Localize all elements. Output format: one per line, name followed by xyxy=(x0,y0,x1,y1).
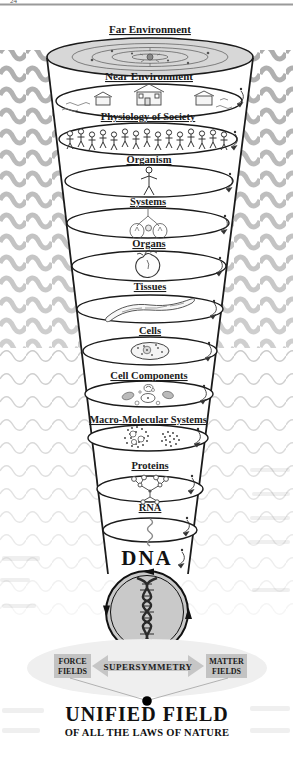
level-disc-macro-molecular xyxy=(88,425,208,451)
matter-fields-label-line1: MATTER xyxy=(209,657,244,666)
level-label-proteins: Proteins xyxy=(131,460,168,471)
matter-fields-label-line2: FIELDS xyxy=(212,667,241,676)
diagram-canvas: 24 xyxy=(0,0,293,758)
level-label-far-environment: Far Environment xyxy=(109,23,191,35)
level-disc-physiology-of-society xyxy=(59,123,237,155)
level-label-macro-molecular: Macro-Molecular Systems xyxy=(89,414,207,425)
level-disc-rna xyxy=(103,518,197,542)
force-fields-label-line2: FIELDS xyxy=(58,667,87,676)
force-fields-label-line1: FORCE xyxy=(59,657,87,666)
level-label-physiology-of-society: Physiology of Society xyxy=(101,111,196,122)
level-label-near-environment: Near Environment xyxy=(105,70,193,82)
level-label-tissues: Tissues xyxy=(134,281,167,292)
supersymmetry-label: SUPERSYMMETRY xyxy=(103,662,192,672)
level-label-systems: Systems xyxy=(130,196,166,207)
unified-field-subtitle: OF ALL THE LAWS OF NATURE xyxy=(65,727,230,738)
level-label-dna: DNA xyxy=(121,546,173,570)
level-disc-proteins xyxy=(97,476,203,502)
level-label-cells: Cells xyxy=(139,325,161,336)
foundation-section: FORCE FIELDS SUPERSYMMETRY MATTER FIELDS… xyxy=(27,639,267,738)
unified-field-title: UNIFIED FIELD xyxy=(65,703,229,725)
level-label-organism: Organism xyxy=(127,154,172,165)
cell-icon xyxy=(131,343,169,360)
level-label-cell-components: Cell Components xyxy=(110,370,187,381)
level-label-rna: RNA xyxy=(139,502,162,513)
level-label-organs: Organs xyxy=(132,238,165,249)
